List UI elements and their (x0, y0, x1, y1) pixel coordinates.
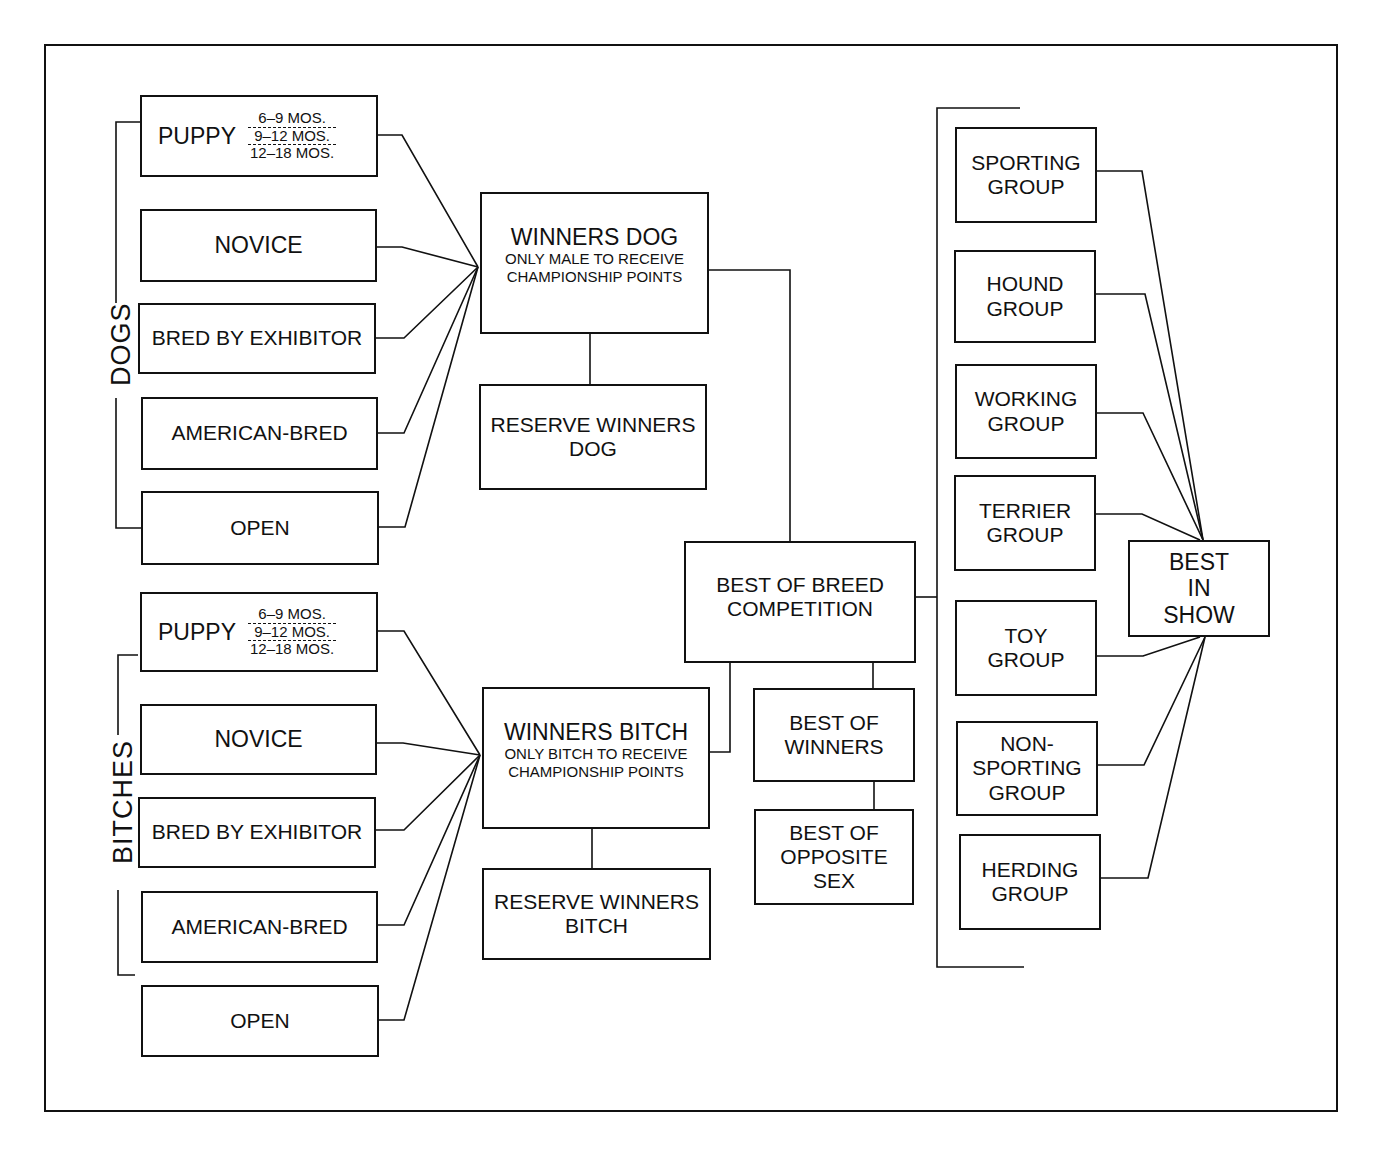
best-in-show-text: SHOW (1163, 602, 1235, 628)
group-text: GROUP (987, 648, 1064, 672)
reserve-winners-bitch-text: BITCH (565, 914, 628, 938)
winners-dog-box: WINNERS DOG ONLY MALE TO RECEIVE CHAMPIO… (480, 192, 709, 334)
group-text: HOUND (987, 272, 1064, 296)
winners-bitch-note: ONLY BITCH TO RECEIVE (504, 745, 687, 763)
age-range: 9–12 MOS. (248, 128, 336, 146)
bitches-class-novice: NOVICE (140, 704, 377, 775)
group-non-sporting: NON- SPORTING GROUP (956, 721, 1098, 816)
best-of-opposite-sex-box: BEST OF OPPOSITE SEX (754, 809, 914, 905)
best-of-opposite-sex-text: SEX (813, 869, 855, 893)
group-text: GROUP (991, 882, 1068, 906)
puppy-label: PUPPY (158, 123, 236, 149)
best-of-winners-box: BEST OF WINNERS (753, 688, 915, 782)
bitches-class-bred-by-exhibitor: BRED BY EXHIBITOR (138, 797, 376, 868)
bitches-class-puppy: PUPPY 6–9 MOS. 9–12 MOS. 12–18 MOS. (140, 592, 378, 672)
winners-bitch-box: WINNERS BITCH ONLY BITCH TO RECEIVE CHAM… (482, 687, 710, 829)
group-text: GROUP (987, 412, 1064, 436)
winners-dog-note: CHAMPIONSHIP POINTS (507, 268, 683, 286)
dogs-class-puppy: PUPPY 6–9 MOS. 9–12 MOS. 12–18 MOS. (140, 95, 378, 177)
age-range: 6–9 MOS. (248, 606, 336, 624)
group-working: WORKING GROUP (955, 364, 1097, 459)
best-of-opposite-sex-text: OPPOSITE (780, 845, 887, 869)
bitches-section-label: BITCHES (108, 754, 138, 868)
age-range: 12–18 MOS. (248, 145, 336, 162)
group-hound: HOUND GROUP (954, 250, 1096, 343)
puppy-age-ranges: 6–9 MOS. 9–12 MOS. 12–18 MOS. (248, 606, 336, 658)
dogs-class-american-bred: AMERICAN-BRED (141, 397, 378, 470)
dogs-class-novice: NOVICE (140, 209, 377, 282)
best-in-show-box: BEST IN SHOW (1128, 540, 1270, 637)
best-in-show-text: BEST (1169, 549, 1229, 575)
best-of-winners-text: BEST OF (789, 711, 878, 735)
reserve-winners-dog-text: RESERVE WINNERS (491, 413, 696, 437)
dogs-class-open: OPEN (141, 491, 379, 565)
reserve-winners-dog-text: DOG (569, 437, 617, 461)
puppy-label: PUPPY (158, 619, 236, 645)
best-of-winners-text: WINNERS (784, 735, 883, 759)
group-text: WORKING (975, 387, 1078, 411)
winners-bitch-title: WINNERS BITCH (504, 719, 688, 745)
group-text: GROUP (986, 523, 1063, 547)
dogs-class-bred-by-exhibitor: BRED BY EXHIBITOR (138, 303, 376, 374)
group-text: NON- (1000, 732, 1054, 756)
age-range: 6–9 MOS. (248, 110, 336, 128)
best-of-opposite-sex-text: BEST OF (789, 821, 878, 845)
group-toy: TOY GROUP (955, 600, 1097, 696)
winners-bitch-note: CHAMPIONSHIP POINTS (508, 763, 684, 781)
best-of-breed-text: COMPETITION (727, 597, 873, 621)
group-text: SPORTING (971, 151, 1080, 175)
best-of-breed-box: BEST OF BREED COMPETITION (684, 541, 916, 663)
group-text: TOY (1005, 624, 1048, 648)
winners-dog-title: WINNERS DOG (511, 224, 678, 250)
bitches-class-american-bred: AMERICAN-BRED (141, 891, 378, 963)
reserve-winners-dog-box: RESERVE WINNERS DOG (479, 384, 707, 490)
dogs-section-label: DOGS (106, 308, 136, 390)
group-terrier: TERRIER GROUP (954, 475, 1096, 571)
puppy-age-ranges: 6–9 MOS. 9–12 MOS. 12–18 MOS. (248, 110, 336, 162)
reserve-winners-bitch-text: RESERVE WINNERS (494, 890, 699, 914)
group-text: TERRIER (979, 499, 1071, 523)
group-text: SPORTING (972, 756, 1081, 780)
group-sporting: SPORTING GROUP (955, 127, 1097, 223)
group-text: GROUP (986, 297, 1063, 321)
reserve-winners-bitch-box: RESERVE WINNERS BITCH (482, 868, 711, 960)
best-of-breed-text: BEST OF BREED (716, 573, 884, 597)
best-in-show-text: IN (1188, 575, 1211, 601)
age-range: 12–18 MOS. (248, 641, 336, 658)
group-text: GROUP (987, 175, 1064, 199)
bitches-class-open: OPEN (141, 985, 379, 1057)
age-range: 9–12 MOS. (248, 624, 336, 642)
group-herding: HERDING GROUP (959, 834, 1101, 930)
winners-dog-note: ONLY MALE TO RECEIVE (505, 250, 684, 268)
group-text: GROUP (988, 781, 1065, 805)
group-text: HERDING (982, 858, 1079, 882)
